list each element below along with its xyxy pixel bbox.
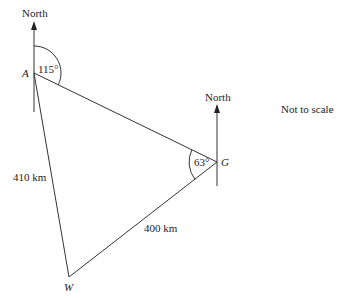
- point-label-w: W: [64, 282, 73, 293]
- side-label-aw: 410 km: [13, 172, 46, 183]
- point-label-g: G: [221, 157, 229, 168]
- north-label-g: North: [205, 92, 231, 103]
- north-label-a: North: [22, 8, 48, 19]
- side-ag: [34, 73, 217, 162]
- angle-label-g: 63°: [194, 157, 209, 168]
- not-to-scale-note: Not to scale: [281, 104, 334, 115]
- side-label-gw: 400 km: [144, 223, 177, 234]
- north-arrow-g: [214, 104, 220, 186]
- point-label-a: A: [22, 68, 29, 79]
- north-arrow-a: [31, 21, 37, 112]
- diagram-lines: [0, 0, 340, 298]
- angle-label-a: 115°: [38, 64, 59, 75]
- bearing-diagram: North North Not to scale A G W 115° 63° …: [0, 0, 340, 298]
